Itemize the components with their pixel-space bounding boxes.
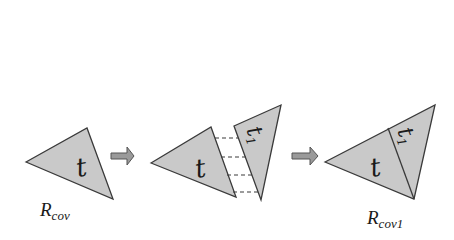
merge-diagram: t Rcov t t1 t t1 Rcov1 xyxy=(0,0,454,240)
region-label-sub: cov xyxy=(52,208,70,223)
merged-triangle xyxy=(325,105,435,199)
region-label-main: R xyxy=(39,199,52,220)
right-arrow-icon xyxy=(111,147,134,165)
region-label-main: R xyxy=(366,207,379,228)
region-label-rcov1: Rcov1 xyxy=(366,207,403,231)
stage-2: t t1 xyxy=(151,105,281,200)
triangle-t1 xyxy=(234,105,281,200)
region-label-rcov: Rcov xyxy=(39,199,70,223)
right-arrow-icon xyxy=(292,147,318,165)
region-label-sub: cov1 xyxy=(379,216,404,231)
triangle-t xyxy=(26,128,113,199)
stage-1: t Rcov xyxy=(26,128,113,223)
stage-3: t t1 Rcov1 xyxy=(325,105,435,231)
